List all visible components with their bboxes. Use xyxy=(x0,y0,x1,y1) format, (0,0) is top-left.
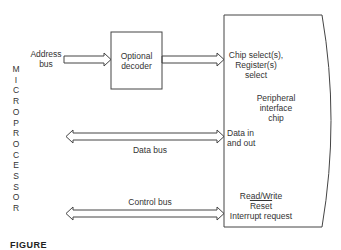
letter: E xyxy=(11,160,21,171)
peripheral-label-line: chip xyxy=(250,113,302,123)
microprocessor-label: M I C R O P R O C E S S O R xyxy=(11,64,21,214)
decoder-label: Optional decoder xyxy=(111,51,162,71)
letter: R xyxy=(11,96,21,107)
chip-select-line: select xyxy=(227,70,285,80)
peripheral-chip-label: Peripheral interface chip xyxy=(250,93,302,123)
letter: O xyxy=(11,107,21,118)
data-port-line: and out xyxy=(227,138,255,148)
control-bus-label: Control bus xyxy=(115,197,185,207)
decoder-label-line: Optional xyxy=(111,51,162,61)
data-port-label: Data in and out xyxy=(227,128,255,148)
data-port-line: Data in xyxy=(227,128,255,138)
control-bus-arrow xyxy=(66,207,224,220)
letter: P xyxy=(11,118,21,129)
address-bus-label-line: Address xyxy=(28,49,64,59)
letter: O xyxy=(11,139,21,150)
letter: S xyxy=(11,182,21,193)
letter: I xyxy=(11,75,21,86)
letter: M xyxy=(11,64,21,75)
letter: C xyxy=(11,85,21,96)
control-port-label: Read/Write Reset Interrupt request xyxy=(226,191,296,221)
chip-select-label: Chip select(s), Register(s) select xyxy=(227,50,285,80)
chip-select-line: Register(s) xyxy=(227,60,285,70)
figure-caption: FIGURE xyxy=(10,240,47,250)
address-bus-label-line: bus xyxy=(28,59,64,69)
chip-select-arrow xyxy=(162,53,224,66)
address-bus-label: Address bus xyxy=(28,49,64,69)
letter: R xyxy=(11,128,21,139)
decoder-label-line: decoder xyxy=(111,61,162,71)
letter: C xyxy=(11,150,21,161)
chip-select-line: Chip select(s), xyxy=(227,50,285,60)
data-bus-label: Data bus xyxy=(120,145,180,155)
read-write-line: Read/Write xyxy=(226,191,296,201)
address-bus-arrow xyxy=(64,53,111,66)
peripheral-label-line: interface xyxy=(250,103,302,113)
reset-line: Reset xyxy=(226,201,296,211)
interrupt-request-line: Interrupt request xyxy=(226,211,296,221)
letter: R xyxy=(11,203,21,214)
peripheral-label-line: Peripheral xyxy=(250,93,302,103)
letter: O xyxy=(11,192,21,203)
data-bus-arrow xyxy=(66,130,224,143)
letter: S xyxy=(11,171,21,182)
